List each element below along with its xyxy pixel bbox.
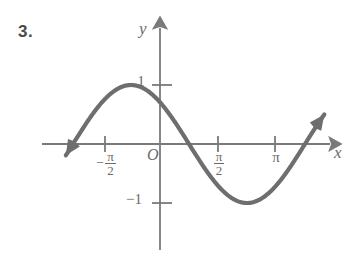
fraction-numerator: π (105, 150, 116, 164)
y-tick-label-neg-one: −1 (119, 192, 149, 208)
x-tick-label-neg-pi-over-2: −π2 (90, 150, 122, 177)
fraction-denominator: 2 (214, 164, 225, 177)
fraction-neg-pi-over-2: π2 (105, 150, 116, 177)
x-tick-label-pi-over-2: π2 (209, 150, 229, 177)
y-tick-label-one: 1 (133, 74, 149, 90)
fraction-denominator: 2 (105, 164, 116, 177)
curve-left-arrowhead (66, 139, 80, 155)
fraction-pi-over-2: π2 (214, 150, 225, 177)
curve-right-arrowhead (310, 115, 324, 131)
x-axis-label: x (334, 143, 342, 163)
fraction-numerator: π (214, 150, 225, 164)
y-axis-label: y (139, 19, 147, 39)
origin-label: O (147, 146, 159, 164)
graph-plot (0, 0, 356, 261)
figure-container: 3. y x O 1 −1 −π2 π2 π (0, 0, 356, 261)
minus-sign: − (96, 156, 105, 171)
x-tick-label-pi: π (266, 150, 286, 166)
